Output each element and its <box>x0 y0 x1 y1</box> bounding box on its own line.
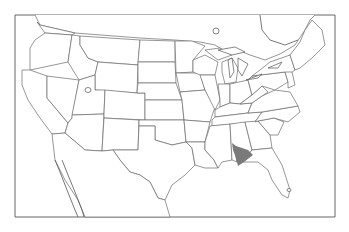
lake-canada <box>213 28 219 34</box>
range-map <box>0 0 349 232</box>
state-new-mexico <box>102 118 139 151</box>
state-colorado <box>104 90 145 120</box>
state-kansas <box>145 100 184 120</box>
us-outline-map <box>0 0 349 232</box>
state-south-dakota <box>138 62 176 83</box>
state-wisconsin <box>193 55 218 75</box>
state-wyoming <box>95 62 138 93</box>
state-oregon <box>30 33 72 70</box>
landmass <box>22 15 325 217</box>
great-salt-lake <box>85 88 91 93</box>
state-north-dakota <box>138 40 175 62</box>
lake-okeechobee <box>287 189 291 192</box>
lake-huron <box>238 58 248 76</box>
